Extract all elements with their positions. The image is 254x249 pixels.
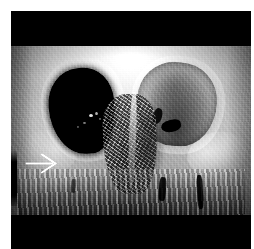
ct-grain-texture <box>11 46 251 215</box>
ct-volume-rendering <box>11 46 251 215</box>
volume-clip-edge <box>11 150 17 206</box>
figure-root <box>0 0 254 249</box>
ct-render-canvas <box>11 11 251 249</box>
annotation-arrow-icon <box>25 152 61 174</box>
